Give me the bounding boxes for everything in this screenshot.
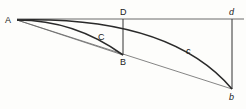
diagram-svg: A D B C d b c: [0, 0, 246, 109]
chord-A-b: [17, 20, 232, 89]
label-A: A: [5, 15, 11, 25]
label-C: C: [98, 32, 105, 42]
label-b: b: [229, 92, 234, 102]
label-c: c: [186, 46, 191, 56]
label-B: B: [120, 57, 126, 67]
diagram-canvas: A D B C d b c: [0, 0, 246, 109]
label-D: D: [120, 7, 127, 17]
label-d: d: [229, 7, 235, 17]
